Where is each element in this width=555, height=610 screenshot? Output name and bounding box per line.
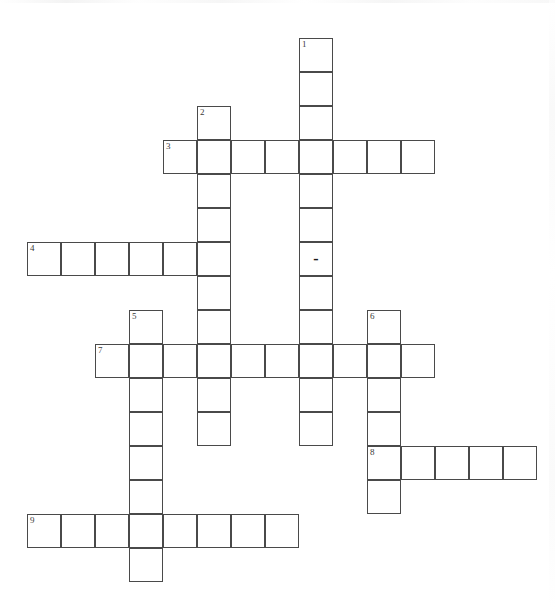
crossword-cell[interactable] xyxy=(469,446,503,480)
crossword-cell[interactable] xyxy=(299,208,333,242)
crossword-cell[interactable] xyxy=(367,378,401,412)
crossword-cell[interactable] xyxy=(197,208,231,242)
cell-letter xyxy=(300,345,332,377)
crossword-puzzle-page: 1-23456879 xyxy=(0,0,555,610)
crossword-cell[interactable] xyxy=(333,344,367,378)
crossword-cell[interactable] xyxy=(231,140,265,174)
cell-letter xyxy=(300,311,332,343)
crossword-cell[interactable] xyxy=(129,242,163,276)
cell-letter xyxy=(28,243,60,275)
crossword-cell[interactable] xyxy=(163,514,197,548)
crossword-cell[interactable] xyxy=(503,446,537,480)
crossword-cell[interactable] xyxy=(197,174,231,208)
crossword-cell-numbered-4[interactable]: 4 xyxy=(27,242,61,276)
crossword-cell[interactable] xyxy=(299,412,333,446)
crossword-cell[interactable] xyxy=(163,344,197,378)
crossword-cell-numbered-1[interactable]: 1 xyxy=(299,38,333,72)
crossword-cell[interactable] xyxy=(265,344,299,378)
cell-letter xyxy=(130,549,162,581)
crossword-cell[interactable] xyxy=(197,310,231,344)
crossword-cell[interactable] xyxy=(61,242,95,276)
crossword-cell[interactable] xyxy=(299,140,333,174)
cell-letter xyxy=(96,243,128,275)
cell-letter xyxy=(300,413,332,445)
crossword-cell[interactable] xyxy=(197,514,231,548)
crossword-cell[interactable] xyxy=(299,174,333,208)
crossword-cell[interactable] xyxy=(129,548,163,582)
crossword-cell[interactable] xyxy=(197,344,231,378)
crossword-cell[interactable] xyxy=(129,480,163,514)
crossword-cell[interactable] xyxy=(401,140,435,174)
cell-letter: - xyxy=(300,243,332,275)
cell-letter xyxy=(62,243,94,275)
cell-letter xyxy=(198,379,230,411)
cell-letter xyxy=(300,379,332,411)
crossword-cell[interactable] xyxy=(367,480,401,514)
crossword-cell[interactable] xyxy=(299,106,333,140)
cell-letter xyxy=(130,311,162,343)
crossword-cell-numbered-7[interactable]: 7 xyxy=(95,344,129,378)
crossword-cell[interactable] xyxy=(163,242,197,276)
cell-letter xyxy=(198,345,230,377)
cell-letter xyxy=(96,345,128,377)
crossword-cell[interactable] xyxy=(265,514,299,548)
crossword-cell[interactable] xyxy=(401,344,435,378)
cell-letter xyxy=(198,277,230,309)
crossword-cell[interactable] xyxy=(367,140,401,174)
crossword-cell[interactable] xyxy=(367,412,401,446)
cell-letter xyxy=(232,515,264,547)
cell-letter xyxy=(470,447,502,479)
cell-letter xyxy=(130,243,162,275)
crossword-cell[interactable] xyxy=(299,378,333,412)
cell-letter xyxy=(164,515,196,547)
crossword-cell[interactable] xyxy=(231,344,265,378)
crossword-cell[interactable] xyxy=(197,242,231,276)
crossword-cell[interactable] xyxy=(333,140,367,174)
crossword-cell[interactable] xyxy=(299,310,333,344)
crossword-cell[interactable] xyxy=(265,140,299,174)
crossword-cell[interactable] xyxy=(197,378,231,412)
cell-letter xyxy=(62,515,94,547)
crossword-cell-numbered-9[interactable]: 9 xyxy=(27,514,61,548)
crossword-cell[interactable] xyxy=(61,514,95,548)
crossword-cell[interactable] xyxy=(435,446,469,480)
crossword-cell[interactable] xyxy=(299,72,333,106)
crossword-cell[interactable] xyxy=(129,446,163,480)
cell-letter xyxy=(96,515,128,547)
cell-letter xyxy=(130,515,162,547)
cell-letter xyxy=(368,379,400,411)
crossword-cell[interactable]: - xyxy=(299,242,333,276)
crossword-cell[interactable] xyxy=(197,140,231,174)
cell-letter xyxy=(198,243,230,275)
cell-letter xyxy=(130,379,162,411)
crossword-cell-numbered-6[interactable]: 6 xyxy=(367,310,401,344)
cell-letter xyxy=(130,345,162,377)
cell-letter xyxy=(334,345,366,377)
crossword-cell[interactable] xyxy=(95,242,129,276)
crossword-cell[interactable] xyxy=(129,514,163,548)
crossword-cell[interactable] xyxy=(129,344,163,378)
crossword-cell[interactable] xyxy=(367,344,401,378)
cell-letter xyxy=(334,141,366,173)
cell-letter xyxy=(300,39,332,71)
cell-letter xyxy=(164,243,196,275)
crossword-cell[interactable] xyxy=(129,378,163,412)
cell-letter xyxy=(368,447,400,479)
crossword-cell[interactable] xyxy=(129,412,163,446)
crossword-cell[interactable] xyxy=(197,412,231,446)
crossword-cell[interactable] xyxy=(231,514,265,548)
crossword-cell[interactable] xyxy=(299,344,333,378)
cell-letter xyxy=(198,175,230,207)
crossword-cell[interactable] xyxy=(95,514,129,548)
crossword-cell-numbered-5[interactable]: 5 xyxy=(129,310,163,344)
crossword-cell[interactable] xyxy=(401,446,435,480)
cell-letter xyxy=(198,107,230,139)
crossword-grid[interactable]: 1-23456879 xyxy=(0,0,555,610)
crossword-cell[interactable] xyxy=(299,276,333,310)
cell-letter xyxy=(266,141,298,173)
crossword-cell-numbered-2[interactable]: 2 xyxy=(197,106,231,140)
crossword-cell-numbered-3[interactable]: 3 xyxy=(163,140,197,174)
crossword-cell-numbered-8[interactable]: 8 xyxy=(367,446,401,480)
crossword-cell[interactable] xyxy=(197,276,231,310)
cell-letter xyxy=(368,413,400,445)
